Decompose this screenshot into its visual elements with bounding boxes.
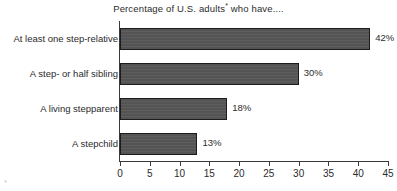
x-axis-tick [299,161,300,166]
x-axis-tick-label: 35 [315,168,341,179]
category-label: A stepchild [0,138,118,149]
x-axis-tick-label: 40 [345,168,371,179]
category-label: At least one step-relative [0,33,118,44]
category-label: A living stepparent [0,103,118,114]
bar-chart-figure: Percentage of U.S. adults* who have.... … [0,0,397,191]
x-axis-tick [150,161,151,166]
bar-value-label: 18% [232,102,251,113]
x-axis-tick-label: 30 [286,168,312,179]
footnote-marker: * [4,179,7,187]
chart-title: Percentage of U.S. adults* who have.... [0,3,397,14]
x-axis-tick-label: 5 [137,168,163,179]
x-axis-line [119,161,388,162]
x-axis-tick-label: 15 [196,168,222,179]
x-axis-tick [180,161,181,166]
x-axis-tick [120,161,121,166]
bar [120,63,299,85]
bar-value-label: 42% [375,32,394,43]
x-axis-tick-label: 45 [375,168,397,179]
x-axis-tick [239,161,240,166]
x-axis-tick [388,161,389,166]
x-axis-tick [328,161,329,166]
chart-title-suffix: who have.... [228,3,284,14]
x-axis-tick-label: 0 [107,168,133,179]
bar [120,98,227,120]
bar-value-label: 30% [304,67,323,78]
x-axis-tick [209,161,210,166]
x-axis-tick-label: 25 [256,168,282,179]
category-label: A step- or half sibling [0,68,118,79]
bar [120,28,370,50]
x-axis-tick [269,161,270,166]
chart-title-text: Percentage of U.S. adults [113,3,225,14]
x-axis-tick-label: 20 [226,168,252,179]
x-axis-tick [358,161,359,166]
bar-value-label: 13% [202,137,221,148]
plot-area: 42%30%18%13% 051015202530354045 [120,21,388,161]
x-axis-tick-label: 10 [167,168,193,179]
bar [120,133,197,155]
